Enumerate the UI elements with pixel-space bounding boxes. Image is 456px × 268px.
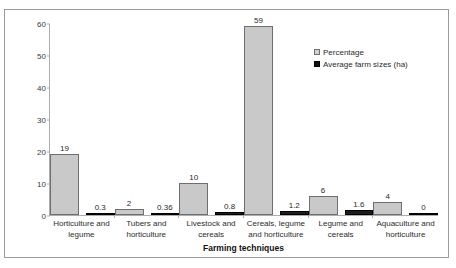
bar-group: 591.2	[244, 24, 309, 215]
legend-label-farm-size: Average farm sizes (ha)	[323, 60, 408, 69]
bar-group: 20.36	[115, 24, 180, 215]
x-tick-label: Tubers and horticulture	[114, 219, 179, 240]
bar-farm-size[interactable]: 0.8	[215, 212, 244, 215]
legend-swatch-farm-size-icon	[314, 61, 320, 67]
bar-value-label: 10	[189, 173, 198, 182]
x-axis-title: Farming techniques	[49, 243, 438, 253]
x-tick-mark	[308, 215, 309, 218]
bar-value-label: 0.8	[224, 202, 235, 211]
bar-group-bars: 190.3	[50, 24, 115, 215]
legend-item-percentage: Percentage	[314, 46, 408, 58]
bar-value-label: 2	[127, 199, 131, 208]
bar-group: 100.8	[179, 24, 244, 215]
y-tick-mark	[47, 216, 50, 217]
bar-farm-size[interactable]: 0	[409, 213, 438, 215]
bar-percentage[interactable]: 2	[115, 209, 144, 215]
bar-percentage[interactable]: 6	[309, 196, 338, 215]
x-tick-label: Legume and cereals	[308, 219, 373, 240]
bar-group-bars: 100.8	[179, 24, 244, 215]
chart-legend: Percentage Average farm sizes (ha)	[314, 46, 408, 70]
bar-percentage[interactable]: 4	[373, 202, 402, 215]
bar-value-label: 19	[60, 144, 69, 153]
bar-value-label: 4	[386, 192, 390, 201]
bar-farm-size[interactable]: 0.36	[151, 213, 180, 215]
bar-group: 190.3	[50, 24, 115, 215]
legend-label-percentage: Percentage	[323, 48, 364, 57]
bar-value-label: 1.2	[289, 201, 300, 210]
x-tick-mark	[178, 215, 179, 218]
bar-farm-size[interactable]: 1.6	[345, 210, 374, 215]
bar-farm-size[interactable]: 1.2	[280, 211, 309, 215]
bar-value-label: 0	[421, 203, 425, 212]
x-tick-mark	[243, 215, 244, 218]
bar-value-label: 6	[321, 186, 325, 195]
chart-figure: Farm sizes and percentage 0102030405060 …	[4, 9, 449, 258]
x-tick-label: Horticulture and legume	[49, 219, 114, 240]
legend-item-farm-size: Average farm sizes (ha)	[314, 58, 408, 70]
bar-value-label: 0.3	[95, 203, 106, 212]
y-axis-title-wrapper: Farm sizes and percentage	[16, 24, 30, 216]
x-tick-label: Cereals, legume and horticulture	[243, 219, 308, 240]
bar-farm-size[interactable]: 0.3	[86, 213, 115, 215]
x-tick-mark	[372, 215, 373, 218]
x-tick-label: Aquaculture and horticulture	[373, 219, 438, 240]
bar-value-label: 59	[254, 16, 263, 25]
bar-value-label: 0.36	[157, 203, 173, 212]
bar-percentage[interactable]: 19	[50, 154, 79, 215]
bar-percentage[interactable]: 59	[244, 26, 273, 215]
bar-group-bars: 591.2	[244, 24, 309, 215]
x-tick-mark	[114, 215, 115, 218]
x-tick-label: Livestock and cereals	[179, 219, 244, 240]
bar-value-label: 1.6	[353, 200, 364, 209]
bar-group-bars: 20.36	[115, 24, 180, 215]
x-axis-tick-labels: Horticulture and legumeTubers and hortic…	[49, 219, 438, 240]
bar-percentage[interactable]: 10	[179, 183, 208, 215]
legend-swatch-percentage-icon	[314, 49, 320, 55]
